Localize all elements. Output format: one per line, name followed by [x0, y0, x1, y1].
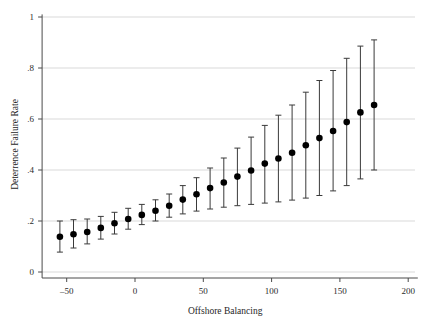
data-point-group: [57, 221, 64, 252]
data-point-group: [275, 115, 282, 202]
data-point-marker: [343, 119, 350, 126]
data-point-marker: [57, 234, 64, 241]
data-point-group: [193, 178, 200, 211]
data-series: [57, 40, 378, 252]
y-axis-ticks: 0.2.4.6.81: [27, 12, 42, 277]
data-point-group: [98, 216, 105, 239]
data-point-marker: [221, 179, 228, 186]
data-point-marker: [371, 102, 378, 109]
axes: [42, 14, 418, 278]
data-point-group: [330, 71, 337, 191]
data-point-group: [111, 212, 118, 234]
chart-figure: 0.2.4.6.81–50050100150200Offshore Balanc…: [0, 0, 428, 319]
data-point-marker: [234, 173, 241, 180]
data-point-marker: [248, 167, 255, 174]
data-point-group: [262, 125, 269, 203]
y-tick-label: .2: [27, 216, 34, 226]
data-point-marker: [207, 185, 214, 192]
data-point-group: [221, 158, 228, 207]
data-point-marker: [275, 155, 282, 162]
gridlines: [42, 17, 415, 272]
y-tick-label: .4: [27, 165, 34, 175]
data-point-marker: [262, 160, 269, 167]
y-tick-label: .8: [27, 63, 34, 73]
data-point-group: [343, 58, 350, 185]
x-tick-label: –50: [59, 286, 74, 296]
scatter-plot-canvas: 0.2.4.6.81–50050100150200Offshore Balanc…: [0, 0, 428, 319]
x-tick-label: 100: [265, 286, 279, 296]
data-point-marker: [193, 191, 200, 198]
data-point-marker: [303, 142, 310, 149]
data-point-group: [207, 168, 214, 209]
data-point-marker: [357, 109, 364, 116]
data-point-group: [234, 148, 241, 206]
data-point-group: [371, 40, 378, 170]
data-point-group: [357, 46, 364, 179]
data-point-group: [84, 219, 91, 244]
data-point-marker: [152, 208, 159, 215]
data-point-group: [303, 92, 310, 198]
y-tick-label: .6: [27, 114, 34, 124]
x-tick-label: 50: [199, 286, 209, 296]
data-point-marker: [316, 135, 323, 142]
data-point-marker: [166, 202, 173, 209]
y-axis-title: Deterrence Failure Rate: [10, 99, 20, 190]
data-point-group: [139, 204, 146, 224]
data-point-marker: [125, 216, 132, 223]
data-point-group: [248, 137, 255, 204]
data-point-marker: [139, 212, 146, 219]
data-point-marker: [330, 128, 337, 135]
x-axis-ticks: –50050100150200: [59, 278, 416, 296]
data-point-marker: [111, 220, 118, 227]
data-point-marker: [84, 229, 91, 236]
data-point-group: [125, 208, 132, 229]
data-point-group: [316, 81, 323, 196]
data-point-group: [180, 186, 187, 214]
data-point-marker: [289, 149, 296, 156]
data-point-marker: [98, 225, 105, 232]
y-tick-label: 0: [30, 267, 35, 277]
data-point-marker: [70, 231, 77, 238]
x-axis-title: Offshore Balancing: [188, 306, 263, 316]
data-point-marker: [180, 196, 187, 203]
x-tick-label: 0: [133, 286, 138, 296]
x-tick-label: 150: [333, 286, 347, 296]
data-point-group: [70, 220, 77, 248]
y-tick-label: 1: [30, 12, 35, 22]
x-tick-label: 200: [401, 286, 415, 296]
data-point-group: [152, 200, 159, 221]
data-point-group: [166, 194, 173, 217]
